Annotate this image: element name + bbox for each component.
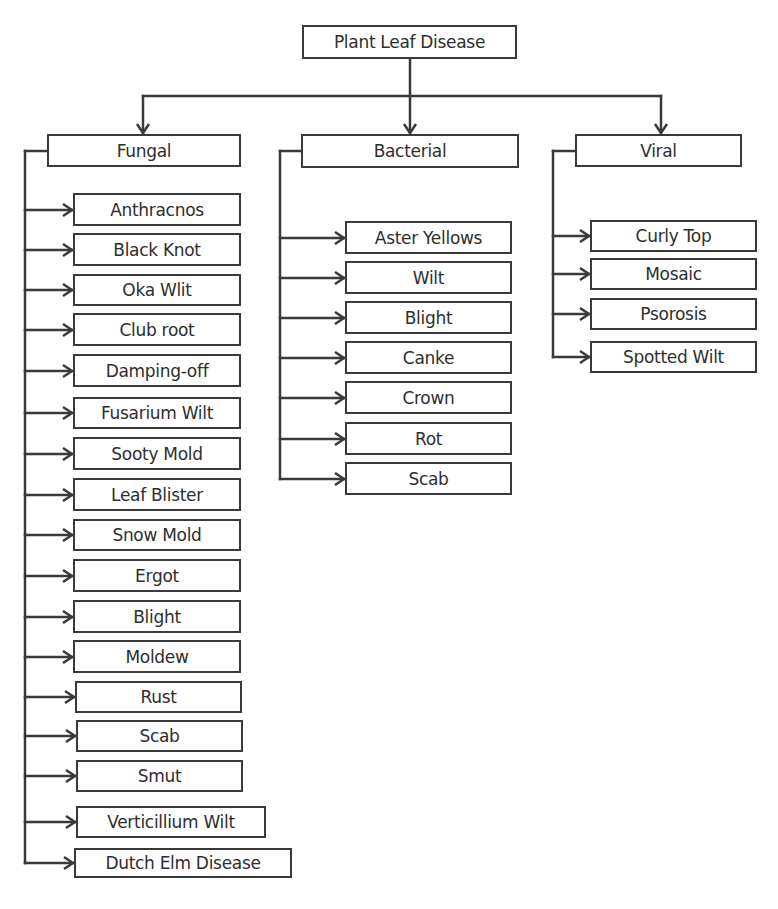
leaf-label: Mosaic <box>645 264 702 284</box>
leaf-label: Black Knot <box>113 240 200 260</box>
leaf-label: Fusarium Wilt <box>101 403 213 423</box>
leaf-label: Crown <box>402 388 454 408</box>
leaf-label: Curly Top <box>636 226 712 246</box>
leaf-label: Spotted Wilt <box>623 347 724 367</box>
leaf-label: Anthracnos <box>110 200 204 220</box>
leaf-node-oka-wlit: Oka Wlit <box>73 274 241 306</box>
leaf-label: Oka Wlit <box>122 280 191 300</box>
plant-leaf-disease-diagram: Plant Leaf Disease Fungal Anthracnos Bla… <box>0 0 778 909</box>
leaf-node-scab: Scab <box>76 720 243 752</box>
leaf-node-mosaic: Mosaic <box>590 258 757 290</box>
leaf-label: Sooty Mold <box>111 444 202 464</box>
leaf-node-snow-mold: Snow Mold <box>73 519 241 551</box>
leaf-node-curly-top: Curly Top <box>590 220 757 252</box>
category-node-viral: Viral <box>575 134 742 167</box>
leaf-label: Ergot <box>135 566 179 586</box>
leaf-node-ergot: Ergot <box>73 559 241 592</box>
leaf-label: Club root <box>120 320 195 340</box>
leaf-label: Moldew <box>125 647 188 667</box>
leaf-label: Smut <box>138 766 182 786</box>
leaf-node-blight: Blight <box>345 301 512 334</box>
leaf-node-anthracnos: Anthracnos <box>73 193 241 226</box>
leaf-node-psorosis: Psorosis <box>590 298 757 330</box>
leaf-label: Rot <box>415 429 442 449</box>
leaf-node-moldew: Moldew <box>73 640 241 673</box>
root-node-label: Plant Leaf Disease <box>334 32 485 52</box>
leaf-node-crown: Crown <box>345 381 512 414</box>
leaf-node-rust: Rust <box>75 681 242 713</box>
leaf-node-spotted-wilt: Spotted Wilt <box>590 341 757 373</box>
category-node-bacterial: Bacterial <box>301 134 519 168</box>
leaf-label: Blight <box>405 308 453 328</box>
leaf-label: Canke <box>403 348 454 368</box>
leaf-node-sooty-mold: Sooty Mold <box>73 437 241 470</box>
leaf-label: Psorosis <box>640 304 706 324</box>
leaf-node-wilt: Wilt <box>345 261 512 294</box>
leaf-label: Dutch Elm Disease <box>105 853 260 873</box>
category-node-fungal: Fungal <box>47 134 241 167</box>
leaf-node-rot: Rot <box>345 422 512 455</box>
leaf-node-dutch-elm-disease: Dutch Elm Disease <box>74 848 292 878</box>
leaf-node-aster-yellows: Aster Yellows <box>345 221 512 254</box>
category-label: Bacterial <box>374 141 447 161</box>
leaf-label: Rust <box>140 687 176 707</box>
leaf-node-smut: Smut <box>76 760 243 792</box>
leaf-node-damping-off: Damping-off <box>73 354 241 387</box>
leaf-node-leaf-blister: Leaf Blister <box>73 478 241 511</box>
leaf-label: Verticillium Wilt <box>107 812 235 832</box>
leaf-label: Damping-off <box>106 361 209 381</box>
category-label: Fungal <box>117 141 172 161</box>
leaf-label: Aster Yellows <box>375 228 482 248</box>
leaf-label: Scab <box>408 469 448 489</box>
leaf-node-black-knot: Black Knot <box>73 233 241 266</box>
leaf-label: Leaf Blister <box>111 485 203 505</box>
leaf-label: Blight <box>133 607 181 627</box>
leaf-node-blight: Blight <box>73 600 241 633</box>
leaf-node-verticillium-wilt: Verticillium Wilt <box>76 806 266 838</box>
leaf-label: Scab <box>139 726 179 746</box>
leaf-label: Snow Mold <box>112 525 201 545</box>
category-label: Viral <box>640 141 677 161</box>
leaf-node-fusarium-wilt: Fusarium Wilt <box>73 397 241 429</box>
leaf-node-canke: Canke <box>345 341 512 374</box>
leaf-node-scab: Scab <box>345 462 512 495</box>
leaf-node-club-root: Club root <box>73 313 241 346</box>
root-node-plant-leaf-disease: Plant Leaf Disease <box>302 25 517 59</box>
leaf-label: Wilt <box>413 268 444 288</box>
